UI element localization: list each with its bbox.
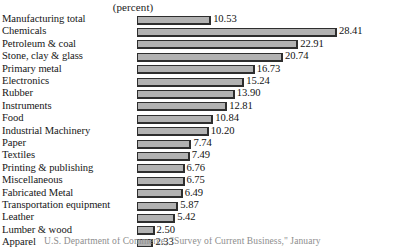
bar-value-label: 10.84 bbox=[215, 112, 239, 123]
bar bbox=[137, 65, 255, 74]
bar-value-label: 20.74 bbox=[285, 50, 309, 61]
bar-value-label: 7.49 bbox=[192, 149, 210, 160]
bar-category-label: Rubber bbox=[2, 87, 33, 98]
bar-track bbox=[137, 202, 178, 211]
bar bbox=[137, 78, 244, 87]
bar-track bbox=[137, 16, 211, 25]
bar-row: Rubber13.90 bbox=[0, 88, 397, 100]
bar-value-label: 28.41 bbox=[339, 25, 363, 36]
source-note: U.S. Department of Commerce, "Survey of … bbox=[0, 237, 397, 247]
bar-category-label: Food bbox=[2, 112, 24, 123]
bar-value-label: 6.76 bbox=[187, 162, 205, 173]
bar-track bbox=[137, 140, 191, 149]
bar-track bbox=[137, 177, 185, 186]
bar bbox=[137, 28, 337, 37]
bar-track bbox=[137, 152, 190, 161]
bar-track bbox=[137, 28, 337, 37]
unit-label: (percent) bbox=[0, 1, 266, 13]
bar-track bbox=[137, 226, 155, 235]
bar-category-label: Transportation equipment bbox=[2, 199, 110, 210]
bar-value-label: 10.20 bbox=[211, 125, 235, 136]
bar bbox=[137, 177, 185, 186]
bar-row: Instruments12.81 bbox=[0, 101, 397, 113]
bar-value-label: 12.81 bbox=[229, 100, 253, 111]
bar bbox=[137, 164, 185, 173]
bar-category-label: Lumber & wood bbox=[2, 224, 72, 235]
bar bbox=[137, 53, 283, 62]
bar-value-label: 5.42 bbox=[177, 211, 195, 222]
bar-category-label: Fabricated Metal bbox=[2, 187, 73, 198]
bar-category-label: Textiles bbox=[2, 149, 35, 160]
bar-row: Manufacturing total10.53 bbox=[0, 14, 397, 26]
bar-category-label: Paper bbox=[2, 137, 26, 148]
bar-value-label: 7.74 bbox=[193, 137, 211, 148]
bar-value-label: 6.49 bbox=[185, 187, 203, 198]
bar-value-label: 13.90 bbox=[237, 87, 261, 98]
bar-category-label: Stone, clay & glass bbox=[2, 50, 83, 61]
bar bbox=[137, 152, 190, 161]
bar-value-label: 16.73 bbox=[257, 63, 281, 74]
bar bbox=[137, 202, 178, 211]
bar-track bbox=[137, 53, 283, 62]
bar-track bbox=[137, 164, 185, 173]
bar-track bbox=[137, 214, 175, 223]
bar-value-label: 5.87 bbox=[180, 199, 198, 210]
source-note-text: U.S. Department of Commerce, "Survey of … bbox=[44, 237, 321, 247]
bar bbox=[137, 226, 155, 235]
bar-category-label: Leather bbox=[2, 211, 34, 222]
bar-track bbox=[137, 127, 209, 136]
bar-row: Lumber & wood2.50 bbox=[0, 225, 397, 237]
bar-category-label: Manufacturing total bbox=[2, 13, 85, 24]
bar bbox=[137, 127, 209, 136]
bar-track bbox=[137, 102, 227, 111]
bar-category-label: Instruments bbox=[2, 100, 51, 111]
bar-track bbox=[137, 115, 213, 124]
bar-category-label: Chemicals bbox=[2, 25, 46, 36]
bar bbox=[137, 102, 227, 111]
bar-track bbox=[137, 40, 298, 49]
bar-value-label: 10.53 bbox=[213, 13, 237, 24]
bar bbox=[137, 90, 235, 99]
bar-row: Electronics15.24 bbox=[0, 76, 397, 88]
chart-page: (percent) Manufacturing total10.53Chemic… bbox=[0, 0, 397, 247]
bar-category-label: Primary metal bbox=[2, 63, 62, 74]
bar bbox=[137, 16, 211, 25]
bar-row: Primary metal16.73 bbox=[0, 64, 397, 76]
bar-value-label: 15.24 bbox=[246, 75, 270, 86]
bar-category-label: Industrial Machinery bbox=[2, 125, 90, 136]
bar-category-label: Electronics bbox=[2, 75, 49, 86]
bar bbox=[137, 214, 175, 223]
bar-value-label: 2.50 bbox=[157, 224, 175, 235]
bar bbox=[137, 189, 183, 198]
bar-row: Transportation equipment5.87 bbox=[0, 200, 397, 212]
bar-category-label: Miscellaneous bbox=[2, 174, 63, 185]
bar-chart-plot-area: Manufacturing total10.53Chemicals28.41Pe… bbox=[0, 14, 397, 229]
bar bbox=[137, 140, 191, 149]
bar-value-label: 6.75 bbox=[187, 174, 205, 185]
bar-track bbox=[137, 65, 255, 74]
bar-track bbox=[137, 78, 244, 87]
bar bbox=[137, 40, 298, 49]
bar-track bbox=[137, 189, 183, 198]
bar bbox=[137, 115, 213, 124]
bar-category-label: Printing & publishing bbox=[2, 162, 93, 173]
bar-value-label: 22.91 bbox=[300, 38, 324, 49]
bar-category-label: Petroleum & coal bbox=[2, 38, 76, 49]
bar-track bbox=[137, 90, 235, 99]
